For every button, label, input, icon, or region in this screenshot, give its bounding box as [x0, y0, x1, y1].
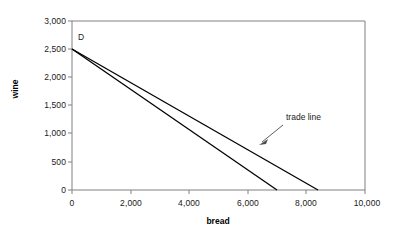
point-label-d: D — [78, 32, 84, 42]
x-tick-label-10000: 10,000 — [345, 198, 389, 208]
x-tick-label-2000: 2,000 — [111, 198, 151, 208]
x-tick-label-8000: 8,000 — [286, 198, 326, 208]
y-axis-title: wine — [10, 67, 20, 111]
x-axis-title: bread — [178, 216, 258, 226]
x-tick-label-6000: 6,000 — [228, 198, 268, 208]
y-tick-label-1000: 1,000 — [20, 128, 66, 138]
chart-container: 3,000 2,500 2,000 1,500 1,000 500 0 0 2,… — [0, 0, 399, 239]
trade-line-annotation-label: trade line — [286, 112, 321, 122]
x-axis-ticks — [72, 190, 365, 194]
y-tick-label-2500: 2,500 — [20, 44, 66, 54]
trade-line-arrow — [259, 125, 283, 145]
data-series — [72, 49, 318, 190]
y-tick-label-3000: 3,000 — [20, 16, 66, 26]
y-tick-label-500: 500 — [20, 157, 66, 167]
x-tick-label-4000: 4,000 — [169, 198, 209, 208]
y-tick-label-1500: 1,500 — [20, 100, 66, 110]
y-tick-label-2000: 2,000 — [20, 72, 66, 82]
ppf-line — [72, 49, 277, 190]
y-axis-ticks — [68, 21, 72, 190]
axis-frame — [72, 21, 365, 190]
x-tick-label-0: 0 — [52, 198, 92, 208]
trade-line — [72, 49, 318, 190]
y-tick-label-0: 0 — [20, 185, 66, 195]
